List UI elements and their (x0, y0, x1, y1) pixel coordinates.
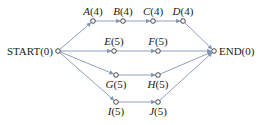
network-svg: START(0)A(4)B(4)C(4)D(4)E(5)F(5)G(5)H(5)… (0, 0, 261, 125)
node-f (156, 49, 161, 54)
edge-j-end (160, 53, 212, 100)
label-h: H(5) (147, 78, 169, 91)
label-f: F(5) (147, 35, 168, 48)
label-end: END(0) (219, 45, 255, 58)
edge-h-end (160, 52, 211, 74)
node-j (156, 100, 161, 105)
edge-start-a (60, 23, 91, 49)
edge-start-i (60, 53, 114, 100)
label-start: START(0) (7, 45, 53, 58)
node-g (114, 73, 119, 78)
edges (60, 21, 212, 102)
label-e: E(5) (103, 35, 124, 48)
edge-d-end (185, 23, 212, 49)
node-e (112, 49, 117, 54)
label-g: G(5) (106, 78, 127, 91)
node-h (156, 73, 161, 78)
node-start (56, 49, 61, 54)
node-c (151, 19, 156, 24)
nodes (56, 19, 217, 105)
label-c: C(4) (143, 5, 164, 18)
label-j: J(5) (149, 105, 167, 118)
label-i: I(5) (107, 105, 125, 118)
node-d (181, 19, 186, 24)
edge-start-g (60, 52, 113, 74)
label-b: B(4) (113, 5, 133, 18)
project-network-diagram: START(0)A(4)B(4)C(4)D(4)E(5)F(5)G(5)H(5)… (0, 0, 261, 125)
label-d: D(4) (172, 5, 194, 18)
labels: START(0)A(4)B(4)C(4)D(4)E(5)F(5)G(5)H(5)… (7, 5, 255, 118)
node-b (121, 19, 126, 24)
label-a: A(4) (82, 5, 103, 18)
node-end (212, 49, 217, 54)
node-a (91, 19, 96, 24)
node-i (114, 100, 119, 105)
